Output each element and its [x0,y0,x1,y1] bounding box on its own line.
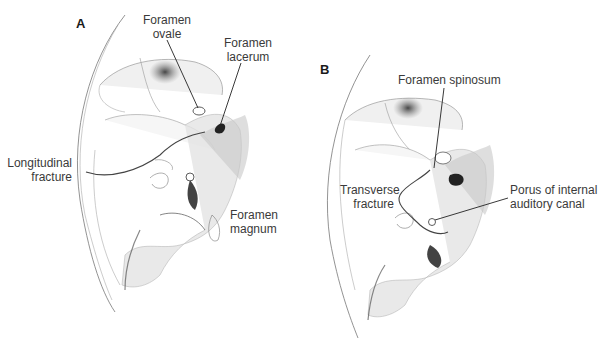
label-porus-internal-auditory-canal: Porus of internal auditory canal [510,183,597,211]
panel-a: A Foramen ovale Foramen lacerum Longitud… [0,0,300,354]
label-foramen-lacerum: Foramen lacerum [218,36,278,64]
label-foramen-spinosum: Foramen spinosum [398,73,501,87]
label-transverse-fracture: Transverse fracture [340,183,394,211]
panel-letter-b: B [320,62,329,77]
label-foramen-magnum: Foramen magnum [230,208,278,236]
panel-letter-a: A [76,16,85,31]
label-foramen-ovale: Foramen ovale [138,13,196,41]
label-longitudinal-fracture: Longitudinal fracture [6,156,72,184]
panel-b: B Foramen spinosum Transverse fracture P… [300,0,598,354]
